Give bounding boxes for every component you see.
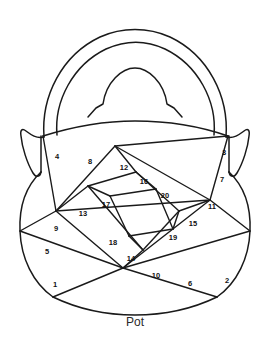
divider-line [129, 236, 143, 250]
region-label-15: 15 [189, 219, 197, 228]
divider-line [56, 186, 88, 211]
pot-figure: 1234567891011121314151617181920 Pot [0, 0, 270, 340]
divider-line [110, 196, 129, 236]
divider-line [20, 211, 56, 231]
body-right-edge [217, 172, 250, 297]
region-label-20: 20 [161, 191, 169, 200]
region-label-14: 14 [127, 254, 136, 263]
figure-caption: Pot [126, 315, 145, 329]
lid-dome-outline [88, 68, 182, 117]
region-label-9: 9 [54, 224, 58, 233]
divider-line [210, 200, 250, 231]
region-label-13: 13 [79, 209, 87, 218]
divider-line [123, 268, 217, 297]
region-label-7: 7 [220, 175, 224, 184]
pot-line-drawing: 1234567891011121314151617181920 Pot [0, 0, 270, 340]
body-bottom-edge [53, 297, 217, 315]
region-label-6: 6 [188, 279, 192, 288]
region-label-17: 17 [102, 200, 110, 209]
divider-line [88, 186, 110, 196]
region-label-16: 16 [140, 177, 148, 186]
region-label-2: 2 [225, 276, 229, 285]
region-number-labels: 1234567891011121314151617181920 [45, 148, 229, 289]
region-label-18: 18 [109, 238, 117, 247]
pot-lid-group [88, 68, 182, 117]
region-label-19: 19 [169, 233, 177, 242]
region-label-4: 4 [55, 152, 60, 161]
region-label-10: 10 [152, 271, 160, 280]
divider-line [43, 136, 56, 211]
region-label-3: 3 [222, 148, 226, 157]
divider-line [20, 231, 123, 268]
divider-line [110, 189, 156, 196]
divider-line [210, 136, 228, 200]
region-label-1: 1 [53, 280, 57, 289]
divider-line [53, 268, 123, 297]
region-label-8: 8 [88, 157, 92, 166]
divider-line [88, 172, 136, 186]
body-left-edge [20, 172, 53, 297]
divider-line [115, 136, 228, 146]
rim-line [43, 121, 228, 136]
region-label-5: 5 [45, 247, 49, 256]
region-label-12: 12 [120, 163, 128, 172]
divider-line [123, 200, 210, 268]
region-label-11: 11 [208, 202, 216, 211]
